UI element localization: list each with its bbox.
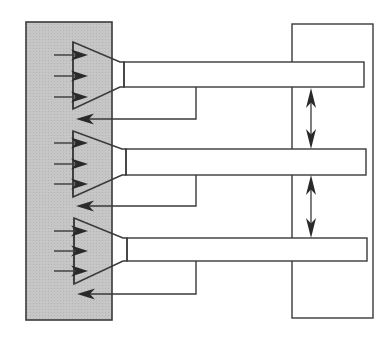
beam-bar bbox=[127, 238, 367, 261]
spacing-arrow-2 bbox=[306, 175, 316, 238]
schematic-diagram bbox=[0, 0, 388, 338]
diagram-canvas bbox=[0, 0, 388, 338]
beam-bar bbox=[124, 62, 364, 87]
beam-bar bbox=[126, 149, 366, 175]
spacing-arrow-1 bbox=[306, 88, 316, 149]
source-panel bbox=[26, 22, 112, 320]
